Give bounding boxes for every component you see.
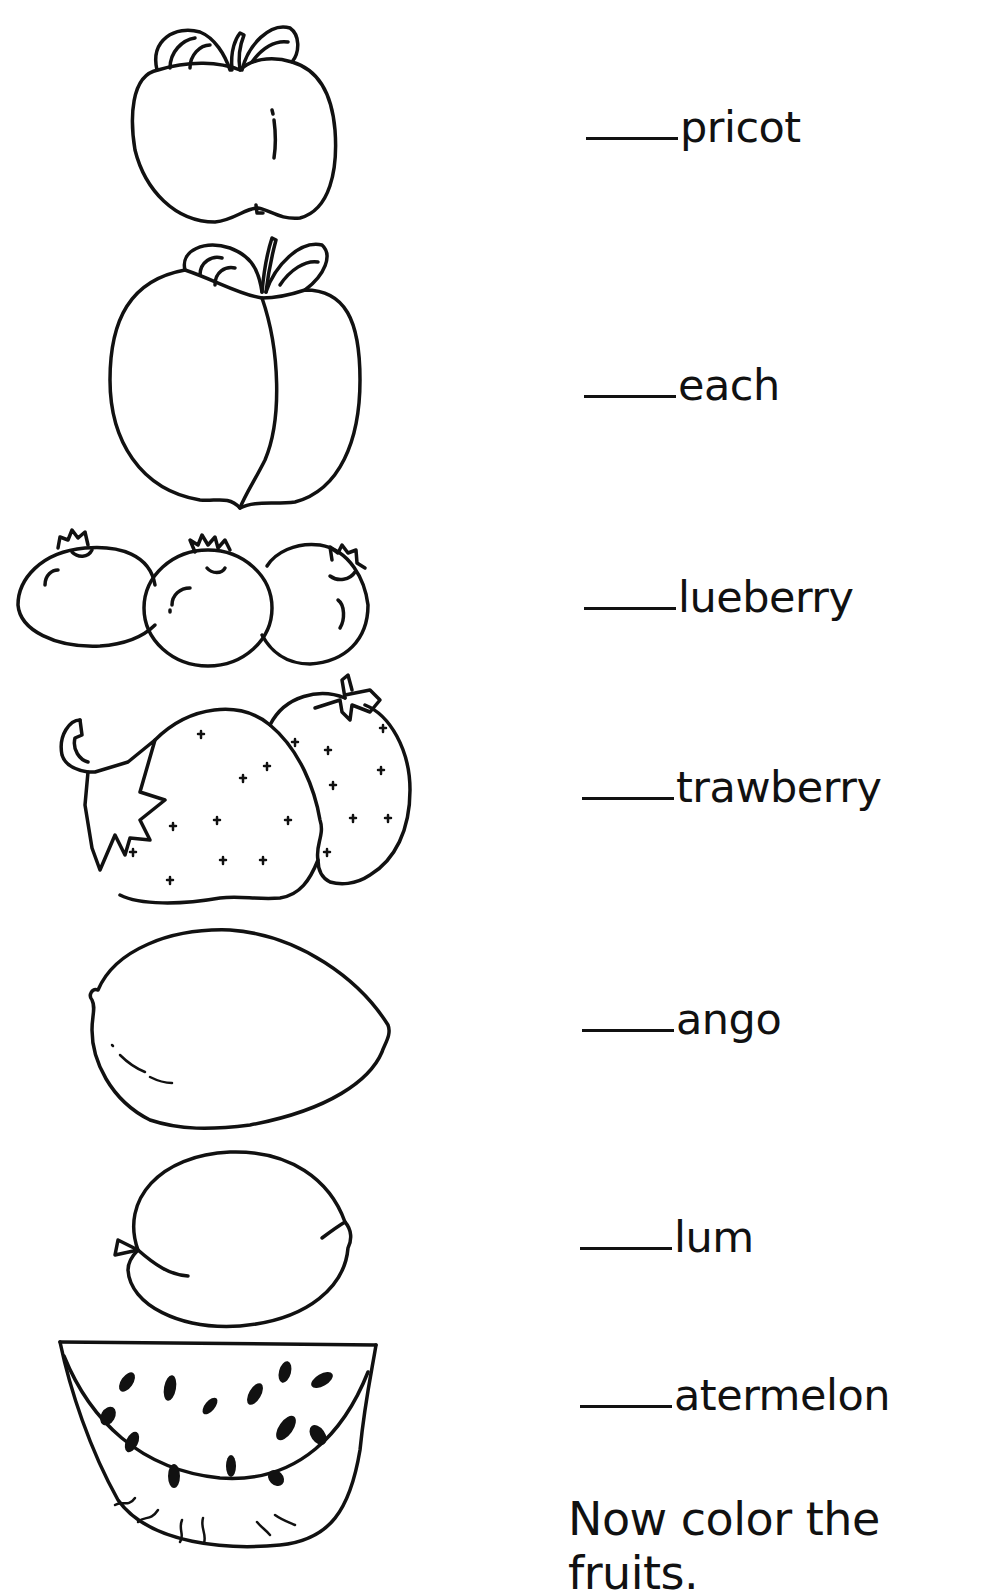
word-fragment: each	[678, 364, 780, 407]
word-fragment: atermelon	[674, 1374, 890, 1417]
word-fragment: lum	[674, 1216, 754, 1259]
answer-blank[interactable]	[582, 797, 674, 800]
watermelon-icon	[60, 1342, 376, 1547]
answer-blank[interactable]	[580, 1247, 672, 1250]
answer-blank[interactable]	[582, 1029, 674, 1032]
apricot-icon	[132, 27, 335, 222]
word-item-watermelon: atermelon	[580, 1374, 890, 1417]
instruction-text: Now color the fruits.	[568, 1492, 983, 1594]
answer-blank[interactable]	[584, 395, 676, 398]
word-item-plum: lum	[580, 1216, 754, 1259]
answer-blank[interactable]	[580, 1405, 672, 1408]
word-item-blueberry: lueberry	[584, 576, 853, 619]
word-fragment: trawberry	[676, 766, 881, 809]
word-fragment: pricot	[680, 106, 801, 149]
answer-blank[interactable]	[584, 607, 676, 610]
word-item-strawberry: trawberry	[582, 766, 881, 809]
answer-blank[interactable]	[586, 137, 678, 140]
strawberries-icon	[61, 675, 410, 903]
word-fragment: ango	[676, 998, 781, 1041]
word-item-apricot: pricot	[586, 106, 801, 149]
word-item-peach: each	[584, 364, 780, 407]
blueberries-icon	[18, 530, 368, 666]
mango-icon	[90, 930, 389, 1128]
word-fragment: lueberry	[678, 576, 853, 619]
peach-icon	[110, 238, 360, 508]
plum-icon	[115, 1152, 351, 1327]
word-item-mango: ango	[582, 998, 781, 1041]
